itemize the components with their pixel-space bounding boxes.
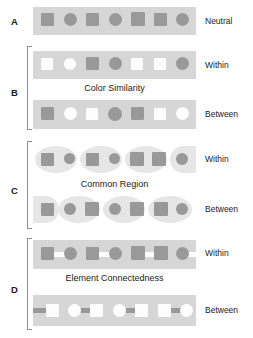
condition-label-between: Between: [205, 110, 238, 119]
condition-label-within: Within: [205, 155, 229, 164]
element-circle: [176, 57, 189, 70]
element-square: [41, 107, 54, 120]
element-circle: [109, 153, 120, 164]
element-circle: [176, 13, 189, 26]
element-square: [90, 304, 103, 317]
element-circle: [109, 203, 121, 215]
element-square: [154, 202, 168, 216]
gestalt-grouping-figure: A Neutral B Within Color Similarity Betw…: [0, 0, 253, 338]
element-square: [130, 202, 144, 216]
element-square: [86, 57, 99, 70]
element-circle: [180, 304, 193, 317]
element-square: [154, 108, 166, 120]
element-circle: [108, 107, 122, 121]
element-circle: [176, 153, 188, 165]
element-circle: [64, 13, 77, 26]
element-square: [152, 152, 166, 166]
element-square: [86, 13, 99, 26]
element-square: [131, 107, 144, 120]
element-square: [154, 58, 166, 70]
element-circle: [64, 153, 75, 164]
panel-b-caption: Color Similarity: [33, 84, 196, 93]
element-circle: [113, 304, 126, 317]
element-circle: [64, 203, 76, 215]
panel-d-caption: Element Connectedness: [33, 274, 196, 283]
element-circle: [176, 107, 189, 120]
element-square: [154, 13, 167, 26]
condition-label-neutral: Neutral: [205, 17, 232, 26]
panel-letter-b: B: [11, 88, 18, 98]
panel-letter-c: C: [11, 186, 18, 196]
element-square: [85, 202, 99, 216]
element-square: [41, 13, 54, 26]
element-square: [131, 58, 143, 70]
element-circle: [109, 13, 122, 26]
element-circle: [176, 203, 188, 215]
element-square: [86, 247, 99, 260]
element-square: [131, 246, 145, 260]
element-square: [41, 58, 53, 70]
condition-label-between: Between: [205, 306, 238, 315]
element-square: [135, 304, 148, 317]
panel-letter-a: A: [11, 17, 18, 27]
element-square: [131, 12, 145, 26]
element-circle: [64, 58, 76, 70]
condition-label-within: Within: [205, 61, 229, 70]
element-circle: [64, 247, 77, 260]
element-square: [154, 246, 168, 260]
panel-c-caption: Common Region: [33, 180, 196, 189]
element-circle: [64, 107, 77, 120]
element-square: [46, 304, 59, 317]
element-circle: [109, 57, 122, 70]
condition-label-between: Between: [205, 205, 238, 214]
element-square: [86, 153, 99, 166]
element-square: [86, 108, 98, 120]
element-circle: [109, 247, 122, 260]
element-circle: [176, 247, 189, 260]
panel-letter-d: D: [11, 285, 18, 295]
element-square: [158, 304, 171, 317]
element-square: [130, 152, 144, 166]
condition-label-within: Within: [205, 249, 229, 258]
element-circle: [68, 304, 81, 317]
element-square: [41, 153, 54, 166]
element-square: [41, 203, 54, 216]
element-square: [41, 247, 54, 260]
